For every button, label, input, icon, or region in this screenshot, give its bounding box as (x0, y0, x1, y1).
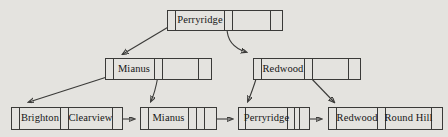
key-cell: Clearview (69, 108, 113, 129)
next-leaf-pointer-cell (205, 108, 216, 129)
arrow-root-to-mianus (123, 26, 170, 54)
pointer-cell (305, 59, 313, 79)
pointer-cell (141, 108, 149, 129)
pointer-cell (254, 59, 262, 79)
leaf-node-perryridge: Perryridge (238, 107, 310, 130)
key-cell: Brighton (20, 108, 61, 129)
pointer-cell (199, 59, 211, 79)
root-node-perryridge: Perryridge (167, 10, 283, 31)
key-cell: Redwood (262, 59, 305, 79)
arrow-mianus-to-leaf1 (29, 76, 110, 102)
internal-node-redwood: Redwood (253, 58, 361, 80)
pointer-cell (12, 108, 20, 129)
key-cell: Mianus (114, 59, 155, 79)
key-cell: Perryridge (176, 11, 225, 30)
pointer-cell (271, 11, 282, 30)
pointer-cell (288, 108, 295, 129)
key-cell: Perryridge (246, 108, 288, 129)
next-leaf-pointer-cell (113, 108, 122, 129)
key-cell (163, 59, 199, 79)
arrow-root-to-redwood (227, 28, 246, 52)
key-cell (233, 11, 271, 30)
key-cell (313, 59, 349, 79)
next-leaf-pointer-cell (300, 108, 309, 129)
leaf-node-brighton-clearview: Brighton Clearview (11, 107, 123, 130)
pointer-cell (106, 59, 114, 79)
pointer-cell (155, 59, 163, 79)
pointer-cell (225, 11, 233, 30)
key-cell (197, 108, 205, 129)
leaf-node-mianus: Mianus (140, 107, 217, 130)
key-cell: Redwood (337, 108, 378, 129)
pointer-cell (168, 11, 176, 30)
internal-node-mianus: Mianus (105, 58, 212, 80)
bplus-tree-diagram: Perryridge Mianus Redwood Brighton Clear… (0, 0, 448, 137)
pointer-cell (189, 108, 197, 129)
next-leaf-pointer-cell (432, 108, 442, 129)
pointer-cell (349, 59, 360, 79)
leaf-node-redwood-roundhill: Redwood Round Hill (328, 107, 443, 130)
key-cell: Round Hill (386, 108, 432, 129)
key-cell: Mianus (149, 108, 189, 129)
